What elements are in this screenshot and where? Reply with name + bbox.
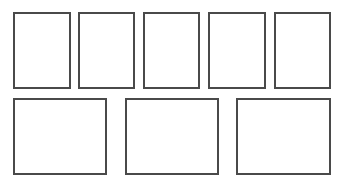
top-row-frame-2 bbox=[78, 12, 135, 89]
top-row-frame-1 bbox=[13, 12, 71, 89]
top-row-frame-3 bbox=[143, 12, 200, 89]
bottom-row-frame-3 bbox=[236, 98, 331, 175]
top-row-frame-4 bbox=[208, 12, 266, 89]
bottom-row-frame-2 bbox=[125, 98, 219, 175]
bottom-row-frame-1 bbox=[13, 98, 107, 175]
top-row-frame-5 bbox=[274, 12, 331, 89]
